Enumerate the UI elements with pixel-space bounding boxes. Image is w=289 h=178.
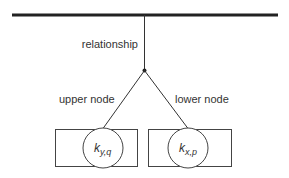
relationship-diagram: relationship upper node lower node ky,q … bbox=[0, 0, 289, 178]
relationship-label: relationship bbox=[82, 38, 138, 50]
lower-node: kx,p bbox=[149, 128, 232, 168]
upper-node-label: upper node bbox=[59, 93, 115, 105]
upper-node: ky,q bbox=[56, 128, 138, 168]
lower-node-label: lower node bbox=[175, 93, 229, 105]
